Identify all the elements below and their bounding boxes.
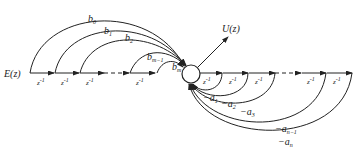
delay-label: z-1: [85, 77, 94, 87]
input-label: E(z): [3, 68, 21, 80]
delay-label: z-1: [306, 76, 315, 86]
delay-label: z-1: [36, 77, 45, 87]
output-label: U(z): [222, 23, 240, 35]
gain-an: −an: [278, 136, 293, 148]
delay-label: z-1: [135, 77, 144, 87]
branch-b2: [80, 40, 186, 73]
summing-node: [182, 65, 200, 83]
forward-delay-labels: z-1 z-1 z-1 z-1: [36, 77, 144, 87]
gain-b1: b1: [104, 25, 112, 37]
gain-a3: −a3: [240, 106, 255, 118]
signal-flow-diagram: E(z) z-1 z-1 z-1 z-1 b0 b1 b2 bm−1 bm U(…: [0, 0, 358, 158]
delay-label: z-1: [332, 76, 341, 86]
delay-label: z-1: [202, 76, 211, 86]
gain-an-1: −an−1: [275, 123, 297, 135]
delay-label: z-1: [254, 76, 263, 86]
branch-b1: [55, 31, 185, 73]
delay-label: z-1: [60, 77, 69, 87]
gain-b2: b2: [125, 32, 133, 44]
gain-a2: −a2: [221, 98, 236, 110]
delay-label: z-1: [228, 76, 237, 86]
output-arrow: [198, 37, 228, 67]
gain-b0: b0: [88, 13, 96, 25]
gain-a1: −a1: [203, 92, 218, 104]
branch-a2: [192, 73, 248, 96]
